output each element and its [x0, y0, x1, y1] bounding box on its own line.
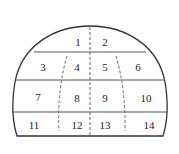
zone-label-12: 12: [72, 119, 83, 131]
zone-label-9: 9: [102, 92, 108, 104]
tunnel-section-diagram: 1 2 3 4 5 6 7 8 9 10 11 12 13 14: [0, 0, 179, 154]
zone-label-8: 8: [74, 92, 80, 104]
left-dashed-curve: [59, 56, 67, 131]
zone-label-4: 4: [74, 61, 80, 73]
zone-label-5: 5: [102, 61, 108, 73]
zone-label-10: 10: [141, 92, 153, 104]
right-dashed-curve: [116, 56, 125, 131]
zone-label-14: 14: [144, 119, 156, 131]
zone-label-11: 11: [29, 119, 40, 131]
zone-label-6: 6: [135, 61, 141, 73]
zone-label-13: 13: [100, 119, 112, 131]
zone-label-3: 3: [40, 61, 46, 73]
zone-label-1: 1: [75, 36, 81, 48]
zone-label-7: 7: [35, 91, 41, 103]
zone-label-2: 2: [102, 36, 108, 48]
